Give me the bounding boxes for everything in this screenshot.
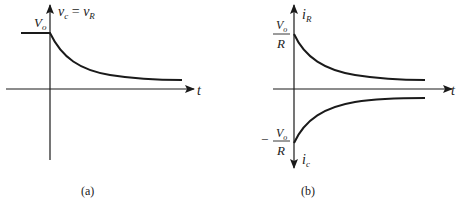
panel-a-y-axis-label: vc = vR: [58, 4, 95, 21]
svg-text:Vo: Vo: [276, 126, 287, 142]
panel-a-caption: (a): [81, 184, 94, 198]
panel-a-vo-label: Vo: [34, 15, 47, 32]
panel-a: Vo vc = vR t (a): [6, 4, 202, 198]
rc-discharge-figure: Vo vc = vR t (a) iR ic Vo R −: [0, 0, 457, 203]
svg-text:R: R: [276, 143, 285, 158]
panel-a-t-label: t: [197, 83, 202, 98]
panel-b-t-label: t: [451, 83, 456, 98]
svg-text:−: −: [261, 132, 268, 147]
svg-text:Vo: Vo: [276, 18, 287, 34]
panel-a-voltage-curve: [21, 33, 182, 80]
panel-b-ir-label: iR: [302, 7, 312, 24]
svg-text:R: R: [276, 36, 285, 51]
panel-b-ic-label: ic: [302, 152, 310, 169]
panel-b-ic-curve: [294, 98, 425, 143]
panel-b-bottom-value-label: − Vo R: [261, 126, 290, 158]
panel-b-caption: (b): [301, 184, 315, 198]
panel-b-top-value-label: Vo R: [273, 18, 290, 51]
panel-b-ir-curve: [294, 34, 425, 80]
panel-b: iR ic Vo R − Vo R t (b): [261, 5, 456, 198]
